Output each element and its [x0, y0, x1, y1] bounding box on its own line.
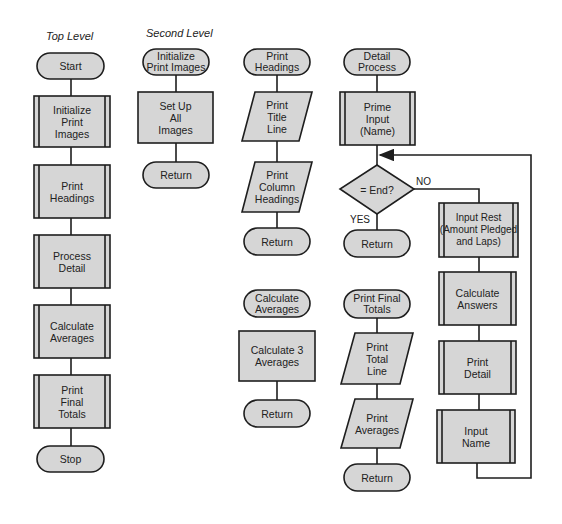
start-label: Start [37, 53, 104, 79]
stop-label: Stop [37, 446, 104, 472]
final-io1-label: Print Total Line [341, 333, 413, 384]
step-label: Initialize Print Images [34, 96, 110, 147]
step-label: Print Headings [34, 165, 110, 218]
no-label: NO [416, 176, 431, 187]
prime-input-label: Prime Input (Name) [340, 92, 415, 145]
avg-process-label: Calculate 3 Averages [239, 331, 315, 381]
headings-io2-label: Print Column Headings [242, 162, 312, 212]
second-level-header: Second Level [146, 27, 213, 39]
avg-entry-label: Calculate Averages [244, 290, 310, 317]
loop-label: Input Name [437, 410, 515, 463]
headings-return-label: Return [244, 228, 310, 255]
top-level-header: Top Level [46, 30, 93, 42]
init-process-label: Set Up All Images [138, 92, 213, 143]
decision-label: = End? [340, 165, 414, 214]
step-label: Calculate Averages [34, 305, 110, 358]
final-return-label: Return [344, 464, 410, 491]
detail-return-label: Return [344, 230, 410, 257]
headings-io1-label: Print Title Line [242, 92, 312, 141]
init-return-label: Return [143, 162, 209, 188]
final-io2-label: Print Averages [341, 399, 413, 448]
yes-label: YES [350, 214, 370, 225]
step-label: Process Detail [34, 235, 110, 288]
init-entry-label: Initialize Print Images [143, 49, 209, 75]
loop-label: Print Detail [439, 341, 516, 394]
step-label: Print Final Totals [34, 375, 110, 428]
loop-label: Calculate Answers [439, 272, 516, 325]
avg-return-label: Return [244, 400, 310, 427]
headings-entry-label: Print Headings [244, 49, 310, 75]
loop-label: Input Rest (Amount Pledged and Laps) [436, 203, 521, 257]
detail-entry-label: Detail Process [344, 49, 410, 75]
final-entry-label: Print Final Totals [344, 290, 410, 318]
